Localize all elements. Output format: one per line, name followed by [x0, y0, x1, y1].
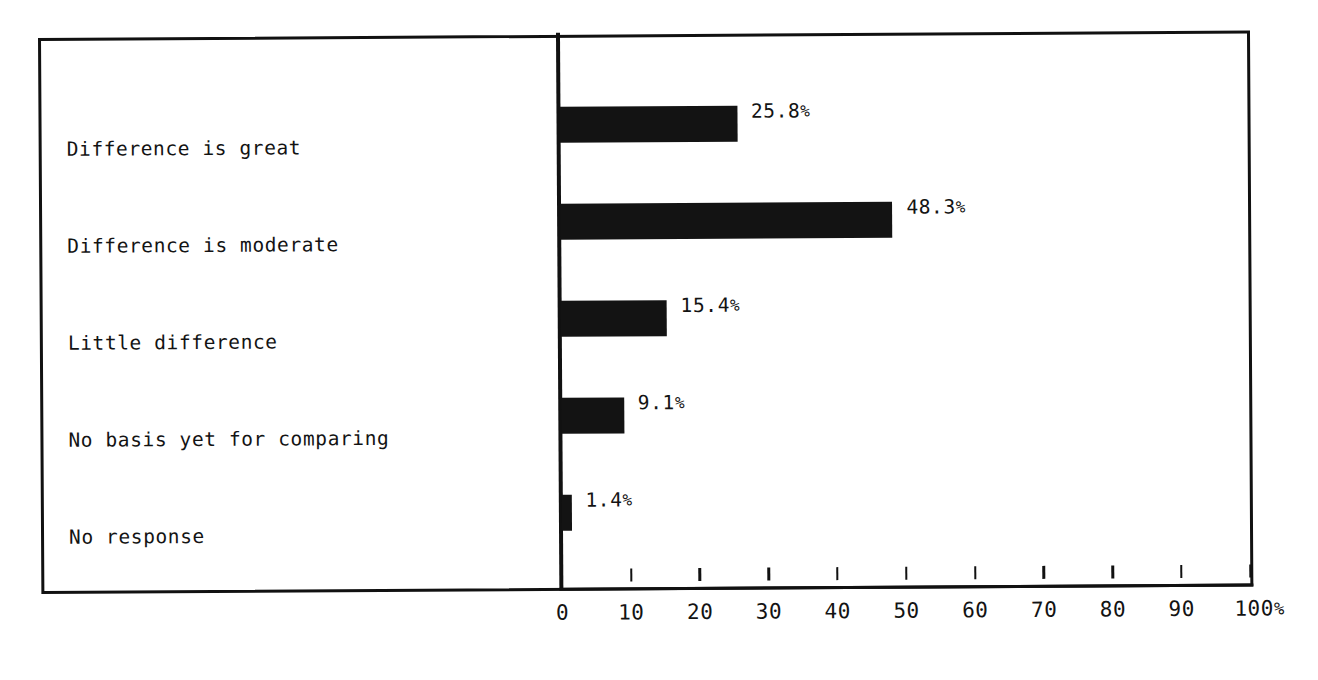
axis-tick-label: 60 [962, 598, 988, 622]
axis-tick-label: 0 [556, 601, 569, 625]
axis-tick-labels: 0102030405060708090100% [38, 31, 1253, 594]
axis-tick-label: 90 [1168, 597, 1194, 621]
axis-tick-label: 80 [1100, 597, 1126, 621]
axis-tick-label: 30 [756, 599, 782, 623]
axis-tick-label: 50 [893, 599, 919, 623]
axis-tick-label: 70 [1031, 598, 1057, 622]
axis-tick-label: 20 [687, 600, 713, 624]
bar-chart-figure: Difference is great25.8%Difference is mo… [0, 0, 1318, 680]
axis-tick-label: 40 [824, 599, 850, 623]
axis-tick-label: 100% [1234, 596, 1284, 620]
axis-tick-label: 10 [618, 600, 644, 624]
